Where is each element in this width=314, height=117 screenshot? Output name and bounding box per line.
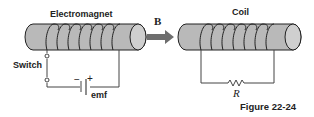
field-label-b: B bbox=[154, 15, 162, 27]
emf-label: emf bbox=[91, 90, 108, 100]
magnetic-field-arrow: B bbox=[147, 15, 174, 44]
coil-label: Coil bbox=[232, 7, 249, 17]
figure-22-24: Electromagnet Switch − + emf B Coil R Fi… bbox=[0, 0, 314, 117]
figure-caption: Figure 22-24 bbox=[240, 101, 297, 112]
electromagnet-circuit bbox=[47, 50, 119, 95]
electromagnet-label: Electromagnet bbox=[50, 9, 113, 19]
switch-terminal-bottom bbox=[45, 78, 49, 82]
switch-label: Switch bbox=[13, 60, 42, 70]
coil: Coil R bbox=[178, 7, 301, 99]
switch-terminal-top bbox=[45, 54, 49, 58]
battery-plus: + bbox=[87, 73, 93, 84]
resistor-label: R bbox=[232, 87, 240, 99]
resistor-symbol bbox=[228, 80, 244, 86]
diagram-canvas: Electromagnet Switch − + emf B Coil R Fi… bbox=[0, 0, 314, 117]
battery-minus: − bbox=[74, 74, 80, 85]
electromagnet: Electromagnet Switch − + emf bbox=[13, 9, 146, 100]
coil-circuit bbox=[201, 50, 274, 86]
